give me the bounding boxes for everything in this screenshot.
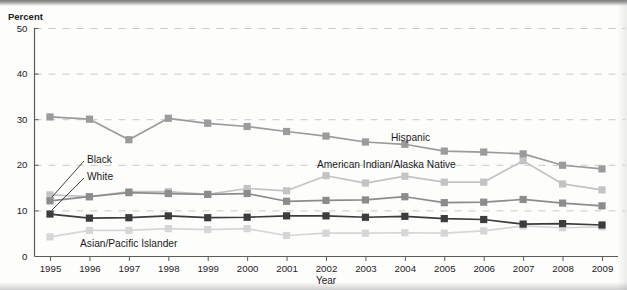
data-point-marker	[244, 225, 251, 232]
data-point-marker	[322, 172, 329, 179]
y-tick-label-20: 20	[17, 159, 28, 170]
x-tick-label-2007: 2007	[513, 263, 535, 274]
x-tick-label-1999: 1999	[197, 263, 219, 274]
data-point-marker	[204, 191, 211, 198]
x-tick-label-2006: 2006	[473, 263, 495, 274]
data-point-marker	[165, 115, 172, 122]
data-series-group	[46, 113, 605, 240]
series-annotation-black: Black	[87, 154, 113, 165]
data-point-marker	[283, 128, 290, 135]
data-point-marker	[520, 157, 527, 164]
data-point-marker	[46, 210, 53, 217]
data-point-marker	[598, 165, 605, 172]
data-point-marker	[322, 212, 329, 219]
data-point-marker	[401, 193, 408, 200]
x-tick-label-2009: 2009	[592, 263, 614, 274]
data-point-marker	[86, 215, 93, 222]
data-point-marker	[520, 196, 527, 203]
data-point-marker	[283, 232, 290, 239]
y-tick-label-10: 10	[17, 205, 28, 216]
data-point-marker	[86, 116, 93, 123]
x-tick-label-1997: 1997	[119, 263, 141, 274]
x-tick-label-2004: 2004	[395, 263, 417, 274]
data-point-marker	[46, 197, 53, 204]
data-point-marker	[559, 180, 566, 187]
series-black	[46, 210, 605, 228]
x-tick-label-1995: 1995	[40, 263, 62, 274]
x-tick-label-2002: 2002	[316, 263, 338, 274]
data-point-marker	[559, 220, 566, 227]
data-point-marker	[322, 230, 329, 237]
annotation-leader-lines	[52, 161, 84, 210]
data-point-marker	[362, 196, 369, 203]
data-point-marker	[86, 227, 93, 234]
data-point-marker	[204, 120, 211, 127]
leader-line-black	[52, 161, 84, 197]
data-point-marker	[125, 189, 132, 196]
series-annotation-american-indian-alaska-native: American Indian/Alaska Native	[317, 159, 456, 170]
data-point-marker	[480, 216, 487, 223]
gridlines	[35, 29, 626, 211]
data-point-marker	[559, 162, 566, 169]
data-point-marker	[125, 214, 132, 221]
data-point-marker	[165, 190, 172, 197]
y-tick-label-40: 40	[17, 68, 28, 79]
data-point-marker	[283, 187, 290, 194]
x-tick-label-2005: 2005	[434, 263, 456, 274]
data-point-marker	[480, 179, 487, 186]
data-point-marker	[520, 150, 527, 157]
data-point-marker	[480, 148, 487, 155]
y-tick-label-30: 30	[17, 114, 28, 125]
data-point-marker	[480, 199, 487, 206]
y-tick-label-50: 50	[17, 23, 28, 34]
data-point-marker	[165, 212, 172, 219]
data-point-marker	[598, 221, 605, 228]
series-annotation-white: White	[87, 171, 113, 182]
data-point-marker	[244, 214, 251, 221]
x-tick-label-2001: 2001	[276, 263, 298, 274]
data-point-marker	[283, 212, 290, 219]
x-tick-label-1998: 1998	[158, 263, 180, 274]
data-point-marker	[165, 225, 172, 232]
y-axis-tick-labels: 01020304050	[17, 23, 39, 262]
data-point-marker	[362, 138, 369, 145]
data-point-marker	[441, 148, 448, 155]
series-annotation-hispanic: Hispanic	[391, 132, 430, 143]
data-point-marker	[441, 199, 448, 206]
data-point-marker	[322, 197, 329, 204]
data-point-marker	[362, 179, 369, 186]
data-point-marker	[204, 226, 211, 233]
x-tick-label-1996: 1996	[79, 263, 101, 274]
data-point-marker	[46, 113, 53, 120]
data-point-marker	[441, 179, 448, 186]
data-point-marker	[362, 230, 369, 237]
data-point-marker	[401, 213, 408, 220]
data-point-marker	[520, 220, 527, 227]
data-point-marker	[480, 227, 487, 234]
data-point-marker	[441, 215, 448, 222]
data-point-marker	[441, 230, 448, 237]
data-point-marker	[401, 173, 408, 180]
x-axis-tick-labels: 1995199619971998199920002001200220032004…	[40, 263, 614, 274]
data-point-marker	[204, 214, 211, 221]
data-point-marker	[401, 229, 408, 236]
data-point-marker	[244, 190, 251, 197]
y-tick-label-0: 0	[22, 251, 28, 262]
data-point-marker	[598, 186, 605, 193]
data-point-marker	[362, 214, 369, 221]
data-point-marker	[322, 132, 329, 139]
chart-page: 01020304050 1995199619971998199920002001…	[0, 0, 627, 290]
data-point-marker	[125, 227, 132, 234]
x-axis-title: Year	[316, 275, 337, 286]
series-white	[46, 189, 605, 209]
x-tick-label-2003: 2003	[355, 263, 377, 274]
x-tick-label-2008: 2008	[552, 263, 574, 274]
series-annotation-asian-pacific-islander: Asian/Pacific Islander	[80, 238, 178, 249]
data-point-marker	[559, 200, 566, 207]
data-point-marker	[86, 193, 93, 200]
axes	[35, 28, 619, 257]
line-chart: 01020304050 1995199619971998199920002001…	[0, 0, 627, 290]
leader-line-white	[52, 178, 84, 210]
data-point-marker	[598, 202, 605, 209]
x-tick-label-2000: 2000	[237, 263, 259, 274]
